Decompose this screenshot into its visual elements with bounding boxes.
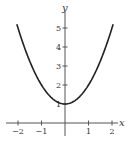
axes xyxy=(6,12,118,136)
y-tick-label: 4 xyxy=(56,43,61,52)
y-tick-label: 5 xyxy=(56,24,61,33)
tick-labels: −2−11212345 xyxy=(12,24,114,136)
y-tick-label: 2 xyxy=(56,81,61,90)
x-tick-label: 1 xyxy=(86,127,91,136)
y-tick-label: 3 xyxy=(56,62,61,71)
chart-svg: −2−11212345 x y xyxy=(0,0,130,141)
x-axis-label: x xyxy=(119,117,125,128)
x-tick-label: −2 xyxy=(12,127,24,136)
x-tick-label: −1 xyxy=(36,127,48,136)
parabola-chart: −2−11212345 x y xyxy=(0,0,130,141)
x-tick-label: 2 xyxy=(109,127,114,136)
y-axis-label: y xyxy=(61,2,68,13)
